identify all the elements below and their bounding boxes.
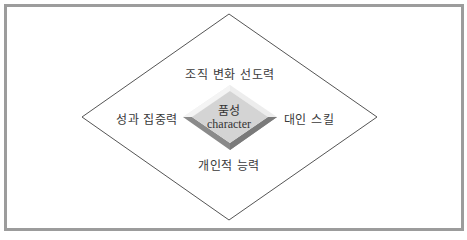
top-label: 조직 변화 선도력 xyxy=(185,65,274,82)
left-label: 성과 집중력 xyxy=(116,110,178,127)
bottom-label: 개인적 능력 xyxy=(198,156,260,173)
right-label: 대인 스킬 xyxy=(284,110,334,127)
center-title-kr: 품성 xyxy=(218,101,241,118)
center-title-en: character xyxy=(207,117,251,132)
